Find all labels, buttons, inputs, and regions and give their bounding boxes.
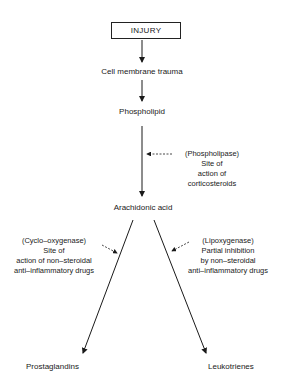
arachidonic-acid-label: Arachidonic acid bbox=[98, 203, 188, 213]
annotation-line: anti–inflammatory drugs bbox=[4, 266, 104, 276]
leukotrienes-label: Leukotrienes bbox=[208, 362, 254, 372]
connector-lines bbox=[0, 0, 286, 381]
annotation-line: (Lipoxygenase) bbox=[178, 236, 278, 246]
annotation-line: (Cyclo–oxygenase) bbox=[4, 236, 104, 246]
lipoxygenase-annotation: (Lipoxygenase) Partial inhibition by non… bbox=[178, 236, 278, 276]
prostaglandins-label: Prostaglandins bbox=[26, 362, 79, 372]
annotation-line: Site of bbox=[172, 159, 252, 169]
injury-label: INJURY bbox=[131, 26, 162, 35]
annotation-line: Partial inhibition bbox=[178, 246, 278, 256]
cell-membrane-trauma-label: Cell membrane trauma bbox=[97, 67, 187, 77]
annotation-line: (Phospholipase) bbox=[172, 149, 252, 159]
phospholipase-annotation: (Phospholipase) Site of action of cortic… bbox=[172, 149, 252, 189]
annotation-line: anti–inflammatory drugs bbox=[178, 266, 278, 276]
annotation-line: corticosteroids bbox=[172, 179, 252, 189]
annotation-line: by non–steroidal bbox=[178, 256, 278, 266]
annotation-line: action of non–steroidal bbox=[4, 256, 104, 266]
injury-box: INJURY bbox=[111, 22, 181, 39]
annotation-line: action of bbox=[172, 169, 252, 179]
annotation-line: Site of bbox=[4, 246, 104, 256]
phospholipid-label: Phospholipid bbox=[107, 107, 177, 117]
cyclooxygenase-annotation: (Cyclo–oxygenase) Site of action of non–… bbox=[4, 236, 104, 276]
